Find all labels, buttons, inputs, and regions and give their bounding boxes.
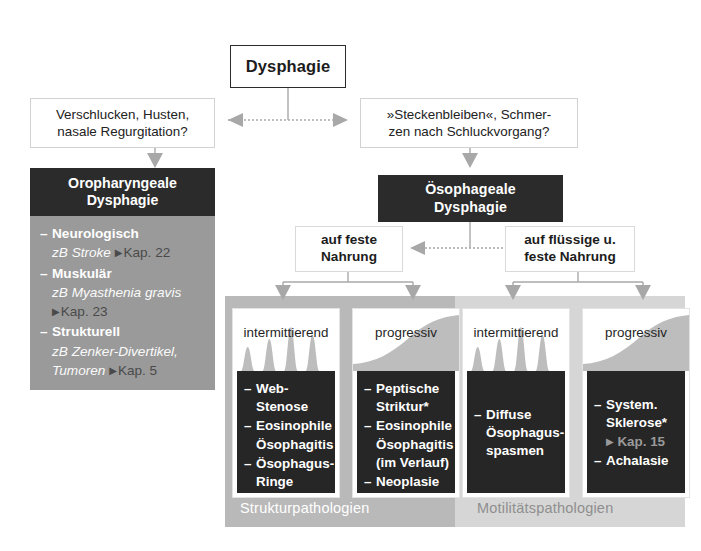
- diagnosis-label: Neoplasie: [376, 473, 449, 491]
- chapter-reference[interactable]: ▶Kap. 5: [109, 363, 157, 378]
- question-esophageal-line2: zen nach Schluckvorgang?: [387, 123, 552, 140]
- list-item: – Neurologisch zB Stroke ▶Kap. 22: [40, 224, 210, 263]
- branch-solid-line2: Nahrung: [321, 249, 377, 266]
- list-item: – Strukturell zB Zenker-Divertikel, Tumo…: [40, 322, 210, 380]
- play-triangle-icon: ▶: [109, 365, 118, 376]
- graph-progressive-ramp: [583, 309, 689, 371]
- node-root-label: Dysphagie: [246, 56, 330, 76]
- node-esophageal-dysphagia[interactable]: Ösophageale Dysphagie: [378, 175, 563, 222]
- list-item: – Diffuse Ösophagus-spasmen: [474, 406, 559, 461]
- diagnosis-label: Ösophagus-Ringe: [256, 455, 334, 491]
- list-bullet-dash: –: [244, 380, 256, 416]
- graph-intermittent-spikes: [463, 309, 569, 371]
- chapter-reference-label: Kap. 22: [123, 245, 170, 260]
- branch-solid-food[interactable]: auf feste Nahrung: [295, 226, 403, 272]
- list-item: – System. Sklerose* ▶ Kap. 15: [594, 396, 679, 451]
- column-diagnoses-list: – System. Sklerose* ▶ Kap. 15 – Achalasi…: [587, 371, 685, 493]
- chapter-reference-label: Kap. 23: [61, 304, 108, 319]
- list-bullet-dash: –: [364, 380, 376, 416]
- list-bullet-dash: –: [364, 417, 376, 472]
- list-item: – Eosinophile Ösophagitis (im Verlauf): [364, 417, 449, 472]
- column-diagnoses-list: – Diffuse Ösophagus-spasmen: [467, 371, 565, 493]
- cause-example: zB Stroke: [52, 245, 111, 260]
- list-bullet-dash: –: [40, 264, 52, 322]
- branch-liquid-line2: feste Nahrung: [524, 249, 615, 266]
- chapter-reference[interactable]: ▶ Kap. 15: [606, 434, 665, 449]
- question-esophageal[interactable]: »Steckenbleiben«, Schmer- zen nach Schlu…: [360, 98, 578, 148]
- connector-root-split: [0, 0, 701, 180]
- branch-solid-line1: auf feste: [321, 232, 377, 249]
- column-diagnoses-list: – Web-Stenose – Eosinophile Ösophagitis …: [237, 371, 335, 493]
- node-esophageal-line2: Dysphagie: [425, 199, 516, 216]
- diagnosis-label: Diffuse Ösophagus-spasmen: [486, 406, 564, 461]
- list-bullet-dash: –: [40, 224, 52, 263]
- question-oropharyngeal[interactable]: Verschlucken, Husten, nasale Regurgitati…: [30, 98, 215, 148]
- chapter-reference[interactable]: ▶Kap. 23: [52, 304, 108, 319]
- list-item: – Ösophagus-Ringe: [244, 455, 329, 491]
- play-triangle-icon: ▶: [606, 436, 614, 447]
- diagnosis-label: Web-Stenose: [256, 380, 329, 416]
- list-bullet-dash: –: [594, 452, 606, 470]
- question-oropharyngeal-line2: nasale Regurgitation?: [56, 123, 189, 140]
- branch-liquid-and-solid-food[interactable]: auf flüssige u. feste Nahrung: [505, 226, 635, 272]
- graph-intermittent-spikes: [233, 309, 339, 371]
- question-oropharyngeal-line1: Verschlucken, Husten,: [56, 106, 189, 123]
- diagnosis-label: Peptische Striktur*: [376, 380, 449, 416]
- column-structural-intermittent[interactable]: intermittierend – Web-Stenose – Eosinoph…: [232, 308, 340, 498]
- diagnosis-label: Eosinophile Ösophagitis: [256, 417, 333, 453]
- list-bullet-dash: –: [244, 455, 256, 491]
- footer-label-motility: Motilitätspathologien: [477, 500, 613, 516]
- list-bullet-dash: –: [244, 417, 256, 453]
- chapter-reference[interactable]: ▶Kap. 22: [115, 245, 171, 260]
- oropharyngeal-causes-list: – Neurologisch zB Stroke ▶Kap. 22 – Musk…: [40, 224, 210, 381]
- cause-term: Muskulär: [52, 266, 112, 281]
- column-motility-intermittent[interactable]: intermittierend – Diffuse Ösophagus-spas…: [462, 308, 570, 498]
- oropharyngeal-header-line1: Oropharyngeale: [68, 175, 177, 192]
- list-item: – Achalasie: [594, 452, 679, 470]
- cause-term: Strukturell: [52, 324, 120, 339]
- list-bullet-dash: –: [594, 396, 606, 451]
- cause-term: Neurologisch: [52, 226, 139, 241]
- dysphagia-flowchart: Strukturpathologien Motilitätspathologie…: [0, 0, 701, 551]
- list-item: – Neoplasie: [364, 473, 449, 491]
- list-bullet-dash: –: [474, 406, 486, 461]
- diagnosis-label: System. Sklerose*: [606, 397, 667, 430]
- play-triangle-icon: ▶: [52, 306, 61, 317]
- list-bullet-dash: –: [40, 322, 52, 380]
- list-item: – Web-Stenose: [244, 380, 329, 416]
- graph-progressive-ramp: [353, 309, 459, 371]
- question-esophageal-line1: »Steckenbleiben«, Schmer-: [387, 106, 552, 123]
- list-item: – Muskulär zB Myasthenia gravis ▶Kap. 23: [40, 264, 210, 322]
- diagnosis-label: Eosinophile Ösophagitis (im Verlauf): [376, 417, 453, 472]
- column-diagnoses-list: – Peptische Striktur* – Eosinophile Ösop…: [357, 371, 455, 493]
- diagnosis-label: Achalasie: [606, 452, 679, 470]
- chapter-reference-label: Kap. 15: [617, 434, 665, 449]
- chapter-reference-label: Kap. 5: [118, 363, 157, 378]
- footer-label-structural: Strukturpathologien: [240, 500, 370, 516]
- list-item: – Peptische Striktur*: [364, 380, 449, 416]
- oropharyngeal-header-line2: Dysphagie: [68, 192, 177, 209]
- column-structural-progressive[interactable]: progressiv – Peptische Striktur* – Eosin…: [352, 308, 460, 498]
- node-esophageal-line1: Ösophageale: [425, 181, 516, 198]
- node-root-dysphagie[interactable]: Dysphagie: [230, 45, 346, 88]
- list-item: – Eosinophile Ösophagitis: [244, 417, 329, 453]
- oropharyngeal-header: Oropharyngeale Dysphagie: [30, 168, 215, 216]
- column-motility-progressive[interactable]: progressiv – System. Sklerose* ▶ Kap. 15…: [582, 308, 690, 498]
- cause-example: zB Myasthenia gravis: [52, 285, 181, 300]
- branch-liquid-line1: auf flüssige u.: [524, 232, 615, 249]
- list-bullet-dash: –: [364, 473, 376, 491]
